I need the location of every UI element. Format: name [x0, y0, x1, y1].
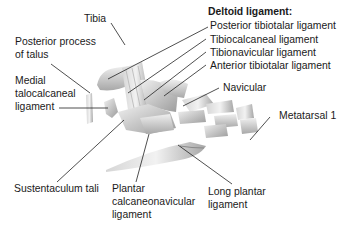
tibiocalcaneal-label: Tibiocalcaneal ligament	[210, 34, 318, 46]
medial-talocalcaneal-label-line3: ligament	[15, 101, 54, 113]
long-plantar-label-line1: Long plantar	[208, 186, 266, 198]
anterior-tibiotalar-label: Anterior tibiotalar ligament	[210, 60, 331, 72]
posterior-tibiotalar-label: Posterior tibiotalar ligament	[210, 20, 336, 32]
posterior-process-label-line2: of talus	[15, 49, 49, 61]
long-plantar-shape	[106, 142, 206, 172]
metatarsal-label: Metatarsal 1	[279, 110, 336, 122]
posterior-process-label-line1: Posterior process	[15, 36, 96, 48]
sustentaculum-tali-label: Sustentaculum tali	[14, 183, 99, 195]
medial-talocalcaneal-label-line2: talocalcaneal	[15, 88, 76, 100]
long-plantar-label-line2: ligament	[208, 199, 247, 211]
plantar-calcaneonavicular-label-line3: ligament	[112, 209, 151, 221]
deltoid-ligament-heading: Deltoid ligament:	[208, 6, 292, 18]
plantar-calcaneonavicular-label-line1: Plantar	[112, 183, 145, 195]
tibia-label: Tibia	[84, 13, 106, 25]
navicular-label: Navicular	[223, 82, 266, 94]
posterior-process-shape	[86, 93, 93, 124]
medial-talocalcaneal-label-line1: Medial	[15, 75, 46, 87]
tibionavicular-label: Tibionavicular ligament	[210, 47, 316, 59]
plantar-calcaneonavicular-label-line2: calcaneonavicular	[112, 196, 195, 208]
